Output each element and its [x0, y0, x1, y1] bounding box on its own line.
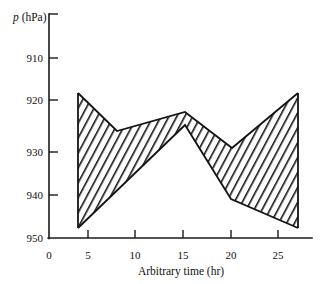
- x-axis-tick-labels: 0 5 10 15 20 25: [46, 249, 284, 261]
- y-tick-label-930: 930: [27, 146, 44, 158]
- y-axis-ticks: [49, 14, 58, 195]
- y-axis-title: p (hPa): [12, 11, 47, 24]
- pressure-band-chart: p (hPa) 910 920 930 940: [0, 0, 327, 284]
- x-tick-label-0: 0: [46, 249, 52, 261]
- x-axis-title: Arbitrary time (hr): [138, 265, 224, 278]
- x-tick-label-15: 15: [178, 249, 190, 261]
- x-axis-ticks: [88, 230, 278, 238]
- y-tick-label-940: 940: [27, 189, 44, 201]
- x-tick-label-5: 5: [85, 249, 91, 261]
- y-tick-label-950: 950: [27, 232, 44, 244]
- x-tick-label-25: 25: [273, 249, 285, 261]
- x-tick-label-20: 20: [226, 249, 238, 261]
- figure-container: p (hPa) 910 920 930 940: [0, 0, 327, 284]
- y-axis-tick-labels: 910 920 930 940 950: [27, 52, 44, 244]
- y-tick-label-920: 920: [27, 94, 44, 106]
- x-tick-label-10: 10: [130, 249, 142, 261]
- y-tick-label-910: 910: [27, 52, 44, 64]
